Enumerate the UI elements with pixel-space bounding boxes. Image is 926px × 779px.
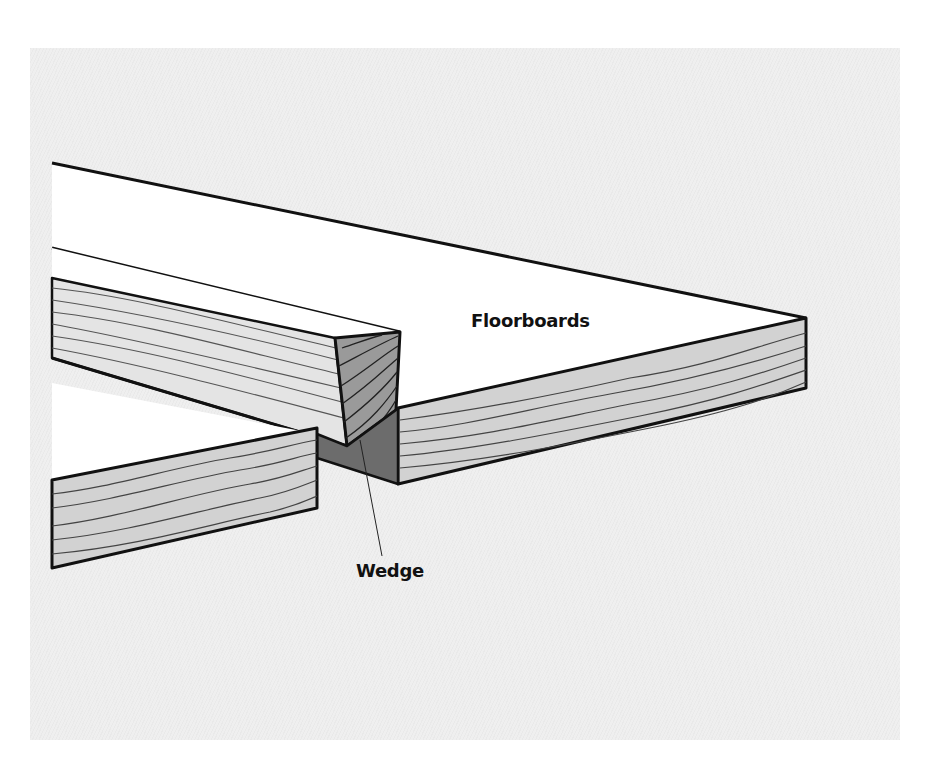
diagram-panel: Floorboards Wedge [30, 48, 900, 740]
floorboard-wedge-illustration [30, 48, 900, 740]
wedge-label: Wedge [356, 560, 424, 581]
floorboards-label: Floorboards [471, 310, 590, 331]
